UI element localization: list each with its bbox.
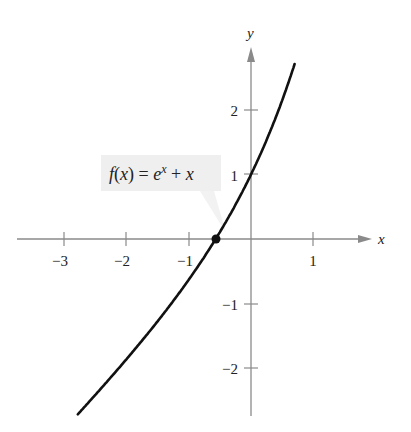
x-tick-label: −2 xyxy=(114,253,130,269)
y-tick-label: 1 xyxy=(231,168,239,184)
y-tick-label: −2 xyxy=(222,361,238,377)
y-axis-arrow-icon xyxy=(247,47,255,62)
y-tick-label: −1 xyxy=(222,297,238,313)
x-tick-label: −1 xyxy=(177,253,193,269)
function-label: f(x) = ex + x xyxy=(109,162,194,185)
x-axis-label: x xyxy=(377,231,385,247)
x-axis-arrow-icon xyxy=(358,235,372,243)
zero-point-marker xyxy=(212,235,221,244)
y-tick-label: 2 xyxy=(231,103,239,119)
x-tick-label: −3 xyxy=(52,253,68,269)
x-tick-label: 1 xyxy=(309,253,317,269)
y-axis-label: y xyxy=(245,25,254,41)
function-graph: −3 −2 −1 1 2 1 −1 −2 x y f(x) = ex + x xyxy=(0,0,411,432)
